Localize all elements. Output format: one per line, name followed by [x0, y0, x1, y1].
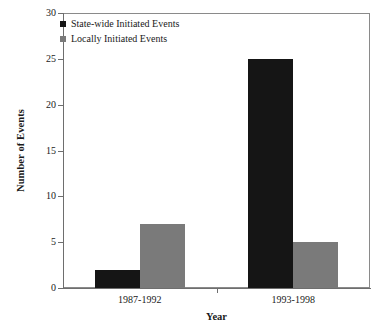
legend-swatch-black-icon: [60, 21, 66, 27]
x-tick-label: 1993-1998: [233, 294, 353, 306]
legend-item-locally: Locally Initiated Events: [60, 33, 179, 45]
y-tick-label: 0: [16, 283, 56, 293]
x-tick-mark: [217, 289, 218, 293]
legend-label-locally: Locally Initiated Events: [71, 33, 167, 45]
x-axis-title: Year: [63, 311, 370, 323]
legend-item-state-wide: State-wide Initiated Events: [60, 18, 179, 30]
bar: [293, 242, 338, 288]
legend-label-state-wide: State-wide Initiated Events: [71, 18, 179, 30]
bar: [248, 59, 293, 288]
y-tick-label: 10: [16, 191, 56, 201]
bar-chart: Number of Events 051015202530 1987-19921…: [0, 0, 381, 330]
y-tick-label: 15: [16, 146, 56, 156]
y-tick-label: 5: [16, 237, 56, 247]
bar: [95, 270, 140, 288]
bars-layer: [63, 13, 370, 288]
y-tick-label: 30: [16, 8, 56, 18]
y-tick-label: 25: [16, 54, 56, 64]
y-tick-label: 20: [16, 100, 56, 110]
legend-swatch-gray-icon: [60, 36, 66, 42]
x-tick-label: 1987-1992: [80, 294, 200, 306]
bar: [140, 224, 185, 288]
chart-legend: State-wide Initiated Events Locally Init…: [60, 18, 179, 45]
